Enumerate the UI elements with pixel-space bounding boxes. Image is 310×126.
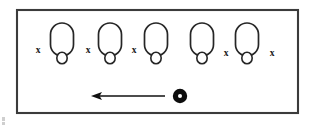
capsule-foot-circle	[242, 52, 252, 64]
capsule-body	[99, 23, 122, 56]
capsule-body	[191, 23, 214, 56]
x-mark-label: x	[86, 45, 91, 55]
capsule-foot-circle	[197, 52, 207, 64]
x-mark-label: x	[36, 45, 41, 55]
origin-marker-dot	[173, 89, 187, 103]
capsule-foot-circle	[57, 52, 67, 64]
scan-artifacts-group	[2, 117, 5, 125]
diagram-svg: xxxxx	[0, 0, 310, 126]
capsule-body	[51, 23, 74, 56]
x-mark-label: x	[224, 48, 229, 58]
x-mark-label: x	[270, 48, 275, 58]
diagram-canvas: xxxxx	[0, 0, 310, 126]
bullseye-inner-dot	[178, 94, 182, 98]
capsule-foot-circle	[151, 52, 161, 64]
scan-artifact	[2, 122, 5, 125]
capsule-foot-circle	[105, 52, 115, 64]
capsule-body	[145, 23, 168, 56]
scan-artifact	[2, 117, 5, 121]
capsule-body	[236, 23, 259, 56]
x-mark-label: x	[132, 45, 137, 55]
